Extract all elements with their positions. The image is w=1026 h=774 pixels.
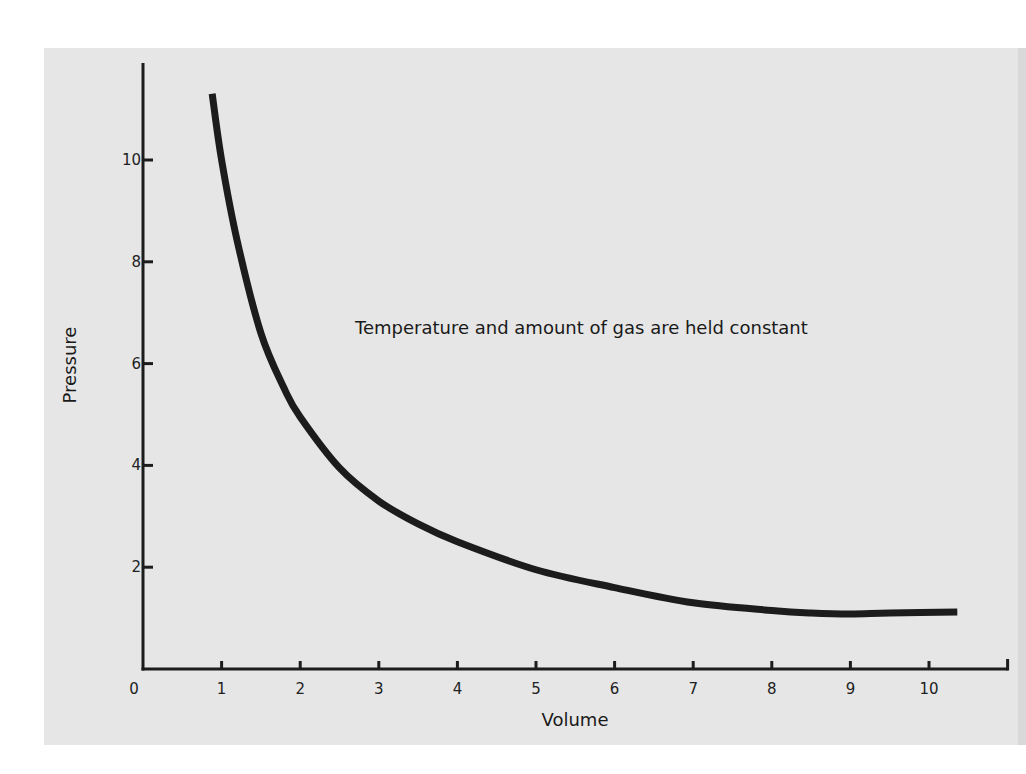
y-tick-label: 4	[131, 456, 141, 474]
x-tick-label: 5	[531, 680, 541, 698]
x-tick-label: 2	[295, 680, 305, 698]
x-tick-label: 3	[374, 680, 384, 698]
x-tick-label: 6	[610, 680, 620, 698]
boyles-law-chart: 012345678910 246810 Temperature and amou…	[0, 0, 1026, 774]
x-tick-label: 8	[767, 680, 777, 698]
x-tick-label: 4	[453, 680, 463, 698]
chart-annotation: Temperature and amount of gas are held c…	[354, 317, 808, 338]
y-tick-label: 8	[131, 253, 141, 271]
x-tick-label: 10	[919, 680, 938, 698]
y-tick-label: 2	[131, 558, 141, 576]
x-axis-title: Volume	[542, 709, 609, 730]
x-axis-ticks: 012345678910	[129, 661, 938, 698]
x-tick-label: 0	[129, 680, 139, 698]
x-tick-label: 7	[688, 680, 698, 698]
pressure-volume-curve	[212, 94, 957, 614]
x-tick-label: 1	[217, 680, 227, 698]
x-tick-label: 9	[846, 680, 856, 698]
y-tick-label: 10	[122, 151, 141, 169]
y-tick-label: 6	[131, 355, 141, 373]
y-axis-ticks: 246810	[122, 151, 153, 576]
y-axis-title: Pressure	[59, 327, 80, 404]
